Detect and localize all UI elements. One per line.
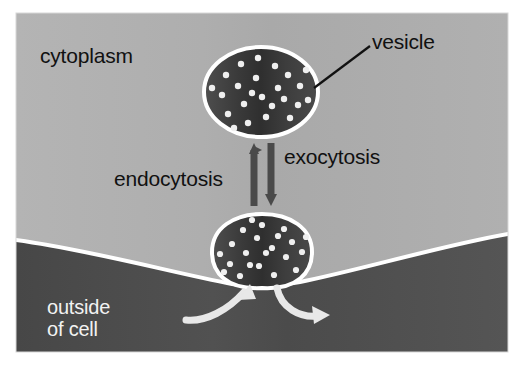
- label-outside-line2: of cell: [47, 318, 98, 340]
- label-outside-of-cell: outsideof cell: [47, 296, 110, 341]
- label-exocytosis: exocytosis: [284, 145, 380, 169]
- label-outside-line1: outside: [47, 296, 110, 318]
- label-cytoplasm: cytoplasm: [40, 44, 133, 68]
- free-vesicle: [204, 47, 318, 137]
- label-endocytosis: endocytosis: [114, 167, 223, 191]
- fusing-vesicle: [212, 214, 312, 288]
- figure-canvas: cytoplasm vesicle endocytosis exocytosis…: [0, 0, 524, 383]
- label-vesicle: vesicle: [372, 30, 435, 54]
